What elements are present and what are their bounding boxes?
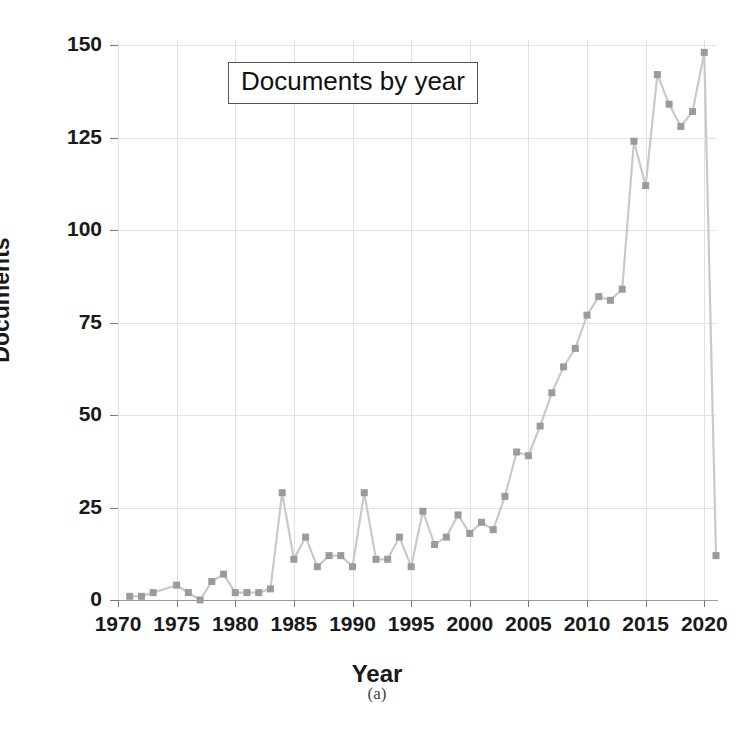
data-point-marker — [185, 589, 192, 596]
data-point-marker — [220, 571, 227, 578]
data-point-marker — [619, 286, 626, 293]
data-point-marker — [255, 589, 262, 596]
data-point-marker — [232, 589, 239, 596]
data-point-marker — [431, 541, 438, 548]
data-point-marker — [560, 363, 567, 370]
data-point-marker — [337, 552, 344, 559]
data-point-marker — [666, 101, 673, 108]
data-point-marker — [419, 508, 426, 515]
data-point-marker — [384, 556, 391, 563]
data-point-marker — [361, 489, 368, 496]
data-point-marker — [326, 552, 333, 559]
data-point-marker — [584, 312, 591, 319]
data-point-marker — [595, 293, 602, 300]
data-point-marker — [455, 511, 462, 518]
data-point-marker — [654, 71, 661, 78]
data-point-marker — [267, 585, 274, 592]
data-point-marker — [689, 108, 696, 115]
data-point-marker — [525, 452, 532, 459]
data-point-marker — [208, 578, 215, 585]
data-point-marker — [173, 582, 180, 589]
data-point-marker — [548, 389, 555, 396]
data-point-marker — [537, 423, 544, 430]
data-point-marker — [396, 534, 403, 541]
data-point-marker — [701, 49, 708, 56]
data-point-marker — [490, 526, 497, 533]
series-line — [130, 52, 716, 600]
data-point-marker — [501, 493, 508, 500]
data-point-marker — [642, 182, 649, 189]
data-point-marker — [443, 534, 450, 541]
figure-caption: (a) — [0, 684, 754, 704]
data-point-marker — [290, 556, 297, 563]
data-point-marker — [150, 589, 157, 596]
data-point-marker — [466, 530, 473, 537]
data-point-marker — [713, 552, 720, 559]
data-point-marker — [478, 519, 485, 526]
data-point-marker — [126, 593, 133, 600]
data-point-marker — [513, 449, 520, 456]
data-point-marker — [197, 597, 204, 604]
data-point-marker — [314, 563, 321, 570]
data-point-marker — [349, 563, 356, 570]
data-point-marker — [572, 345, 579, 352]
data-series-documents — [0, 0, 754, 732]
series-markers — [126, 49, 719, 604]
data-point-marker — [607, 297, 614, 304]
data-point-marker — [630, 138, 637, 145]
data-point-marker — [302, 534, 309, 541]
data-point-marker — [372, 556, 379, 563]
data-point-marker — [408, 563, 415, 570]
data-point-marker — [138, 593, 145, 600]
data-point-marker — [243, 589, 250, 596]
data-point-marker — [279, 489, 286, 496]
figure-documents-by-year: 0255075100125150 19701975198019851990199… — [0, 0, 754, 732]
data-point-marker — [677, 123, 684, 130]
